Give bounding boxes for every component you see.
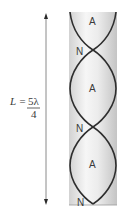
node-label: N [76, 46, 83, 57]
antinode-label: A [89, 159, 96, 170]
node-label: N [76, 123, 83, 134]
standing-wave-diagram: A N A N A N L = 5λ 4 [0, 0, 127, 217]
equation-denominator: 4 [31, 108, 37, 120]
node-label: N [77, 197, 84, 208]
length-equation: L = 5λ 4 [9, 95, 40, 120]
equation-lhs: L = [9, 95, 26, 107]
length-arrow [44, 13, 48, 205]
antinode-label: A [89, 83, 96, 94]
antinode-label: A [89, 16, 96, 27]
equation-numerator: 5λ [28, 95, 40, 107]
